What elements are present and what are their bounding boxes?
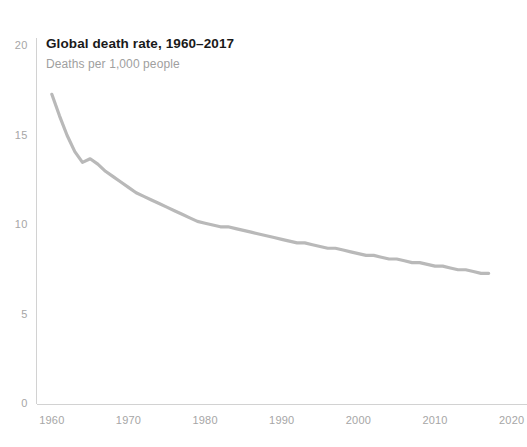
y-axis-tick-label: 20: [15, 39, 28, 51]
chart-container: Global death rate, 1960–2017 Deaths per …: [0, 0, 527, 447]
y-axis-tick-label: 5: [21, 308, 27, 320]
x-axis-tick-label: 1980: [192, 414, 217, 426]
data-series-group: [52, 94, 489, 273]
data-line: [52, 94, 489, 273]
x-axis-tick-label: 1960: [39, 414, 64, 426]
chart-plot-area: 05101520 1960197019801990200020102020: [0, 0, 527, 447]
x-axis-tick-label: 1970: [116, 414, 141, 426]
x-axis-tick-label: 1990: [269, 414, 294, 426]
y-axis-tick-label: 10: [15, 218, 28, 230]
y-axis-tick-label: 0: [21, 397, 27, 409]
x-axis-tick-label: 2000: [346, 414, 371, 426]
x-axis: 1960197019801990200020102020: [37, 404, 527, 426]
x-axis-tick-label: 2010: [422, 414, 447, 426]
y-axis: 05101520: [15, 38, 37, 409]
x-axis-tick-label: 2020: [499, 414, 524, 426]
y-axis-tick-label: 15: [15, 129, 28, 141]
